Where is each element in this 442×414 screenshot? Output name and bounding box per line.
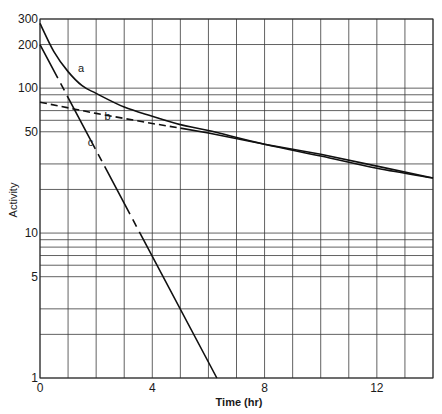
x-tick-labels: 04812 (37, 381, 384, 395)
curve-label-b: b (105, 110, 111, 122)
x-tick-label: 8 (261, 381, 268, 395)
y-axis-title: Activity (7, 182, 19, 217)
curve-label-c: c (88, 136, 94, 148)
x-tick-label: 12 (370, 381, 384, 395)
y-tick-label: 200 (18, 38, 38, 52)
x-tick-label: 4 (149, 381, 156, 395)
y-tick-label: 5 (31, 270, 38, 284)
y-tick-label: 300 (18, 12, 38, 26)
y-tick-label: 100 (18, 81, 38, 95)
grid (40, 19, 433, 378)
y-tick-label: 50 (25, 125, 39, 139)
x-tick-label: 0 (37, 381, 44, 395)
y-tick-label: 10 (25, 226, 39, 240)
curve-labels: abc (78, 62, 111, 148)
x-axis-title: Time (hr) (216, 396, 263, 408)
curve-label-a: a (78, 62, 85, 74)
y-tick-labels: 151050100200300 (18, 12, 38, 385)
chart: 151050100200300 04812 Activity Time (hr)… (0, 0, 442, 414)
